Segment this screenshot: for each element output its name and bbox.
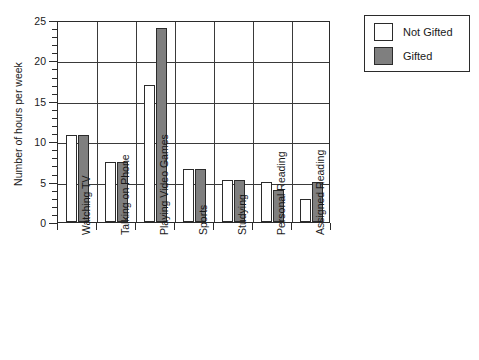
- not-gifted-swatch-icon: [374, 23, 393, 41]
- y-tick-major-10: [49, 142, 57, 143]
- x-tick-1: [96, 223, 97, 230]
- gridline-x-6: [292, 22, 293, 222]
- plot-area: [57, 21, 330, 223]
- y-tick-major-5: [49, 183, 57, 184]
- gridline-x-2: [136, 22, 137, 222]
- bar-notgifted-3: [183, 169, 195, 222]
- y-tick-label-10: 10: [34, 137, 46, 147]
- bar-notgifted-5: [261, 182, 273, 222]
- gridline-y-10: [58, 143, 329, 144]
- x-tick-7: [330, 223, 331, 230]
- x-tick-6: [291, 223, 292, 230]
- bar-notgifted-2: [144, 85, 156, 222]
- x-label-playing-video-games: Playing Video Games: [159, 134, 170, 235]
- legend-entry-not-gifted: Not Gifted: [374, 23, 453, 41]
- gridline-x-1: [97, 22, 98, 222]
- x-tick-4: [213, 223, 214, 230]
- bar-notgifted-0: [66, 135, 78, 222]
- x-tick-3: [174, 223, 175, 230]
- y-tick-major-0: [49, 223, 57, 224]
- bar-notgifted-6: [300, 199, 312, 222]
- y-tick-label-15: 15: [34, 97, 46, 107]
- x-label-studying: Studying: [237, 194, 248, 235]
- gridline-y-20: [58, 62, 329, 63]
- y-tick-label-25: 25: [34, 16, 46, 26]
- bar-notgifted-4: [222, 180, 234, 222]
- x-label-sports: Sports: [198, 205, 209, 235]
- legend-label-not-gifted: Not Gifted: [403, 26, 453, 38]
- y-tick-label-5: 5: [40, 178, 46, 188]
- x-label-assigned-reading: Assigned Reading: [315, 150, 326, 235]
- legend-entry-gifted: Gifted: [374, 47, 432, 65]
- x-label-watching-tv: Watching TV: [81, 175, 92, 235]
- y-tick-major-20: [49, 61, 57, 62]
- x-tick-0: [57, 223, 58, 230]
- gridline-x-5: [253, 22, 254, 222]
- bar-chart-figure: 0510152025 Number of hours per week Watc…: [0, 0, 479, 360]
- y-axis-title: Number of hours per week: [12, 44, 24, 204]
- gridline-y-15: [58, 103, 329, 104]
- bar-notgifted-1: [105, 162, 117, 222]
- x-tick-5: [252, 223, 253, 230]
- gridline-x-3: [175, 22, 176, 222]
- y-tick-label-20: 20: [34, 56, 46, 66]
- y-tick-major-15: [49, 102, 57, 103]
- x-label-personal-reading: Personal Reading: [276, 152, 287, 235]
- gifted-swatch-icon: [374, 47, 393, 65]
- gridline-x-4: [214, 22, 215, 222]
- legend-box: Not Gifted Gifted: [364, 15, 470, 72]
- y-tick-label-0: 0: [40, 218, 46, 228]
- y-tick-major-25: [49, 21, 57, 22]
- x-label-talking-on-phone: Talking on Phone: [120, 154, 131, 235]
- legend-label-gifted: Gifted: [403, 50, 432, 62]
- x-tick-2: [135, 223, 136, 230]
